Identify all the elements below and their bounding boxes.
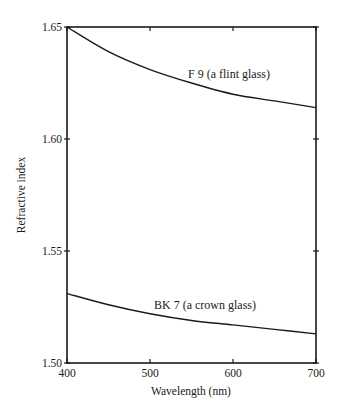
y-axis-label: Refractive index [15,157,27,234]
y-tick-label: 1.60 [42,133,62,145]
x-tick-label: 500 [141,367,159,379]
x-tick-label: 700 [307,367,325,379]
y-tick-label: 1.50 [42,357,62,369]
series-label-bk7: BK 7 (a crown glass) [154,298,256,312]
labels: Wavelength (nm) Refractive index F 9 (a … [15,67,270,398]
series-label-f9: F 9 (a flint glass) [188,67,270,81]
x-tick-label: 600 [224,367,242,379]
axis-ticks: 4005006007001.501.551.601.65 [42,21,325,379]
y-tick-label: 1.55 [42,245,62,257]
refractive-index-chart: 4005006007001.501.551.601.65 Wavelength … [0,0,345,414]
y-tick-label: 1.65 [42,21,62,33]
x-axis-label: Wavelength (nm) [151,385,231,398]
